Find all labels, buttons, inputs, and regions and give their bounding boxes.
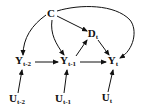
node-ut1: Ut-1: [55, 93, 71, 108]
node-c-label: C: [47, 7, 55, 19]
node-yt: Yt: [108, 55, 118, 70]
node-dt-subscript: t: [96, 33, 98, 41]
edge-ut1-to-yt1: [64, 70, 67, 93]
node-yt2: Yt-2: [15, 55, 31, 70]
node-yt1-subscript: t-1: [68, 60, 76, 68]
node-ut: Ut: [102, 92, 112, 107]
node-c: C: [47, 8, 55, 19]
edge-c-to-yt1: [52, 20, 64, 55]
node-yt-label: Y: [108, 54, 116, 66]
node-ut-subscript: t: [110, 97, 112, 105]
node-dt-label: D: [88, 27, 96, 39]
edge-c-to-yt2: [23, 15, 46, 55]
node-yt2-label: Y: [15, 54, 23, 66]
node-ut2-label: U: [9, 92, 17, 104]
node-ut-label: U: [102, 91, 110, 103]
node-dt: Dt: [88, 28, 98, 43]
node-ut2-subscript: t-2: [17, 98, 25, 106]
node-yt2-subscript: t-2: [23, 60, 31, 68]
node-ut1-label: U: [55, 92, 63, 104]
node-yt-subscript: t: [116, 60, 118, 68]
causal-diagram: C Dt Yt-2 Yt-1 Yt Ut-2 Ut-1 Ut: [0, 0, 142, 111]
edge-c-to-dt: [57, 16, 87, 31]
node-yt1-label: Y: [60, 54, 68, 66]
edge-ut-to-yt: [108, 70, 113, 92]
edge-yt1-to-dt: [76, 40, 87, 56]
node-ut1-subscript: t-1: [63, 98, 71, 106]
edge-ut2-to-yt2: [18, 70, 22, 93]
node-ut2: Ut-2: [9, 93, 25, 108]
node-yt1: Yt-1: [60, 55, 76, 70]
